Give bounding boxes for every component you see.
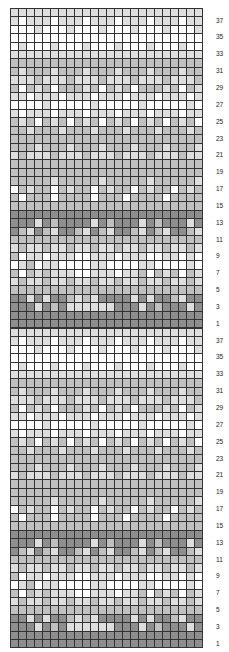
chart-cell — [19, 438, 27, 446]
chart-cell — [59, 228, 67, 236]
chart-cell — [147, 93, 155, 101]
chart-cell — [195, 598, 203, 606]
chart-cell — [179, 278, 187, 286]
chart-cell — [147, 219, 155, 227]
chart-cell — [171, 286, 179, 294]
chart-cell — [179, 363, 187, 371]
chart-cell — [19, 430, 27, 438]
chart-cell — [67, 405, 75, 413]
chart-cell — [11, 93, 19, 101]
chart-cell — [187, 110, 195, 118]
chart-cell — [187, 135, 195, 143]
chart-cell — [187, 244, 195, 252]
chart-cell — [115, 26, 123, 34]
chart-cell — [27, 261, 35, 269]
chart-cell — [51, 388, 59, 396]
chart-cell — [171, 590, 179, 598]
chart-cell — [163, 253, 171, 261]
chart-cell — [91, 421, 99, 429]
chart-cell — [67, 51, 75, 59]
chart-cell — [91, 581, 99, 589]
chart-cell — [187, 522, 195, 530]
chart-cell — [19, 186, 27, 194]
chart-cell — [43, 363, 51, 371]
chart-cell — [115, 9, 123, 17]
chart-cell — [43, 76, 51, 84]
chart-cell — [147, 160, 155, 168]
chart-cell — [195, 455, 203, 463]
chart-cell — [195, 144, 203, 152]
chart-cell — [51, 421, 59, 429]
chart-cell — [107, 152, 115, 160]
chart-cell — [147, 76, 155, 84]
chart-cell — [195, 615, 203, 623]
chart-cell — [155, 17, 163, 25]
chart-cell — [187, 480, 195, 488]
chart-cell — [43, 194, 51, 202]
chart-cell — [27, 615, 35, 623]
chart-cell — [131, 346, 139, 354]
chart-cell — [27, 388, 35, 396]
chart-cell — [123, 413, 131, 421]
chart-cell — [195, 177, 203, 185]
chart-cell — [51, 43, 59, 51]
chart-cell — [147, 346, 155, 354]
chart-cell — [131, 236, 139, 244]
chart-cell — [35, 522, 43, 530]
chart-cell — [123, 623, 131, 631]
chart-cell — [171, 236, 179, 244]
chart-cell — [147, 522, 155, 530]
chart-cell — [187, 623, 195, 631]
chart-cell — [59, 548, 67, 556]
chart-cell — [139, 539, 147, 547]
chart-cell — [27, 573, 35, 581]
chart-cell — [83, 472, 91, 480]
chart-cell — [75, 556, 83, 564]
chart-cell — [115, 278, 123, 286]
chart-cell — [163, 640, 171, 648]
chart-cell — [131, 396, 139, 404]
chart-cell — [171, 68, 179, 76]
chart-cell — [11, 17, 19, 25]
chart-cell — [179, 244, 187, 252]
chart-cell — [123, 26, 131, 34]
chart-cell — [51, 379, 59, 387]
chart-cell — [171, 438, 179, 446]
chart-cell — [115, 615, 123, 623]
chart-cell — [83, 573, 91, 581]
chart-cell — [155, 51, 163, 59]
chart-cell — [163, 329, 171, 337]
chart-cell — [67, 270, 75, 278]
chart-cell — [123, 573, 131, 581]
chart-cell — [163, 413, 171, 421]
chart-cell — [147, 472, 155, 480]
chart-cell — [75, 85, 83, 93]
chart-cell — [75, 489, 83, 497]
chart-cell — [179, 497, 187, 505]
chart-cell — [195, 472, 203, 480]
chart-cell — [51, 76, 59, 84]
row-number-label: 19 — [216, 168, 229, 175]
chart-cell — [27, 464, 35, 472]
chart-cell — [35, 472, 43, 480]
chart-cell — [179, 144, 187, 152]
chart-cell — [91, 68, 99, 76]
chart-cell — [123, 76, 131, 84]
chart-cell — [107, 489, 115, 497]
chart-cell — [163, 43, 171, 51]
chart-cell — [11, 564, 19, 572]
chart-cell — [123, 548, 131, 556]
chart-cell — [91, 295, 99, 303]
chart-cell — [195, 110, 203, 118]
chart-cell — [155, 606, 163, 614]
chart-cell — [171, 177, 179, 185]
chart-cell — [179, 522, 187, 530]
chart-cell — [115, 489, 123, 497]
chart-cell — [187, 270, 195, 278]
chart-cell — [83, 464, 91, 472]
chart-cell — [195, 43, 203, 51]
chart-cell — [35, 312, 43, 320]
chart-cell — [147, 127, 155, 135]
chart-cell — [147, 590, 155, 598]
row-number-label: 13 — [216, 219, 229, 226]
